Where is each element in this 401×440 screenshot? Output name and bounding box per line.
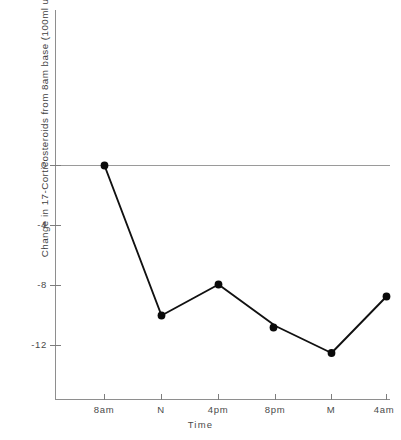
data-point-markers (101, 162, 391, 357)
line-chart-canvas (0, 0, 401, 440)
data-point-4pm (215, 281, 223, 289)
y-tick-label-minus12: -12 (20, 339, 47, 350)
x-tick-label-8am: 8am (94, 404, 115, 415)
data-point-n (158, 312, 166, 320)
x-tick-label-m: M (327, 404, 336, 415)
x-tick-label-8pm: 8pm (265, 404, 286, 415)
x-tick-label-4am: 4am (374, 404, 395, 415)
data-point-8am (101, 162, 109, 170)
data-point-m (328, 349, 336, 357)
x-tick-label-4pm: 4pm (208, 404, 229, 415)
data-point-8pm (270, 324, 278, 332)
x-tick-label-n: N (157, 404, 165, 415)
data-point-4am (383, 293, 391, 301)
x-axis-title: Time (0, 419, 401, 430)
data-series-line (105, 166, 387, 354)
y-tick-label-minus8: -8 (20, 279, 47, 290)
chart-figure: 0 -4 -8 -12 8am N 4pm 8pm M 4am Time Cha… (0, 0, 401, 440)
y-axis-title: Change in 17-Corticosteroids from 8am ba… (39, 0, 50, 268)
